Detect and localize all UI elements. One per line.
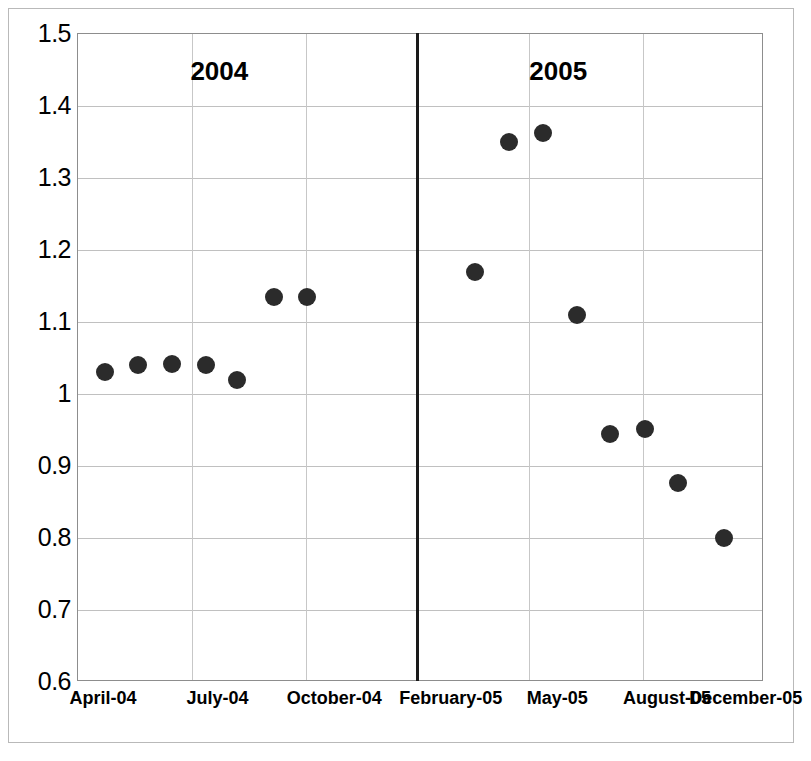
y-tick-label: 1.2 — [13, 237, 71, 262]
x-axis-tick-labels: April-04July-04October-04February-05May-… — [77, 689, 763, 729]
chart-figure: 1.51.41.31.21.110.90.80.70.6 20042005 Ap… — [8, 8, 794, 743]
gridline-vertical — [643, 34, 644, 680]
y-tick-label: 1 — [13, 381, 71, 406]
y-tick-label: 0.7 — [13, 597, 71, 622]
data-point — [298, 288, 316, 306]
era-label: 2004 — [190, 58, 248, 84]
gridline-horizontal — [78, 538, 762, 539]
data-point — [534, 124, 552, 142]
data-point — [669, 474, 687, 492]
x-tick-label: October-04 — [287, 689, 382, 707]
y-tick-label: 1.3 — [13, 165, 71, 190]
x-tick-label: July-04 — [187, 689, 249, 707]
data-point — [568, 306, 586, 324]
gridline-horizontal — [78, 322, 762, 323]
era-label: 2005 — [529, 58, 587, 84]
data-point — [228, 371, 246, 389]
y-tick-label: 1.4 — [13, 93, 71, 118]
data-point — [636, 420, 654, 438]
gridline-vertical — [529, 34, 530, 680]
data-point — [500, 133, 518, 151]
gridline-vertical — [306, 34, 307, 680]
gridline-vertical — [192, 34, 193, 680]
y-tick-label: 1.5 — [13, 21, 71, 46]
gridline-horizontal — [78, 250, 762, 251]
x-tick-label: April-04 — [70, 689, 137, 707]
y-tick-label: 1.1 — [13, 309, 71, 334]
x-tick-label: February-05 — [399, 689, 502, 707]
data-point — [96, 363, 114, 381]
data-point — [466, 263, 484, 281]
data-point — [265, 288, 283, 306]
y-tick-label: 0.9 — [13, 453, 71, 478]
gridline-horizontal — [78, 178, 762, 179]
plot-area: 20042005 — [77, 33, 763, 681]
y-axis-tick-labels: 1.51.41.31.21.110.90.80.70.6 — [9, 33, 71, 681]
x-tick-label: December-05 — [689, 689, 802, 707]
data-point — [197, 356, 215, 374]
x-tick-label: May-05 — [527, 689, 588, 707]
data-point — [129, 356, 147, 374]
gridline-horizontal — [78, 106, 762, 107]
gridline-horizontal — [78, 394, 762, 395]
data-point — [163, 355, 181, 373]
data-point — [715, 529, 733, 547]
data-point — [601, 425, 619, 443]
era-divider-line — [416, 33, 419, 681]
gridline-horizontal — [78, 466, 762, 467]
gridline-horizontal — [78, 610, 762, 611]
y-tick-label: 0.8 — [13, 525, 71, 550]
y-tick-label: 0.6 — [13, 669, 71, 694]
